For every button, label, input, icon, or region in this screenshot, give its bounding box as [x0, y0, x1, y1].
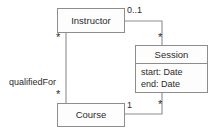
class-name-instructor: Instructor — [71, 16, 111, 26]
multiplicity-instructor-course-target: * — [56, 89, 60, 100]
class-name-course: Course — [76, 110, 107, 120]
attribute-start-date: start: Date — [141, 67, 207, 79]
multiplicity-course-session-source: 1 — [127, 101, 132, 110]
multiplicity-instructor-session-target: * — [158, 32, 162, 43]
multiplicity-instructor-course-source: * — [56, 32, 60, 43]
class-box-course[interactable]: Course — [57, 103, 125, 127]
attribute-end-date: end: Date — [141, 79, 207, 91]
class-name-compartment-session: Session — [136, 46, 207, 63]
multiplicity-instructor-session-source: 0..1 — [127, 6, 142, 15]
class-box-instructor[interactable]: Instructor — [57, 8, 125, 33]
multiplicity-course-session-target: * — [158, 99, 162, 110]
attribute-compartment-session: start: Date end: Date — [136, 63, 207, 93]
class-box-session[interactable]: Session start: Date end: Date — [135, 45, 208, 93]
class-name-session: Session — [155, 50, 189, 60]
uml-class-diagram: Instructor Session start: Date end: Date… — [0, 0, 217, 135]
association-line-instructor-session — [125, 21, 162, 45]
association-label-qualified-for: qualifiedFor — [9, 78, 56, 87]
